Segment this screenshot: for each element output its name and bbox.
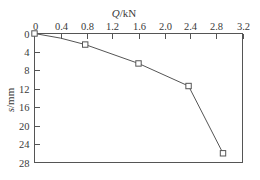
y-tick-label: 28 <box>19 158 30 169</box>
y-tick-label: 4 <box>24 47 30 58</box>
x-tick-label: 1.2 <box>106 21 119 32</box>
x-axis-title-unit: /kN <box>120 7 137 19</box>
y-axis-tick-labels: 0481216202428 <box>19 29 30 169</box>
series-polyline <box>35 34 224 154</box>
y-axis-title-unit: /mm <box>4 87 16 108</box>
y-tick-label: 8 <box>24 65 29 76</box>
series-markers <box>32 31 226 156</box>
data-series <box>32 31 226 156</box>
chart-canvas: Q/kN s/mm 00.40.81.21.62.02.42.83.2 0481… <box>0 0 260 180</box>
x-tick-label: 2.4 <box>184 21 198 32</box>
x-tick-label: 0.4 <box>55 21 69 32</box>
x-tick-label: 3.2 <box>237 21 250 32</box>
y-tick-label: 16 <box>19 102 30 113</box>
y-axis-tick-marks <box>35 53 40 145</box>
data-point-marker <box>186 83 191 88</box>
x-axis-title: Q/kN <box>112 7 137 19</box>
x-axis-tick-labels: 00.40.81.21.62.02.42.83.2 <box>33 21 250 32</box>
x-tick-label: 2.8 <box>210 21 223 32</box>
x-tick-label: 0 <box>33 21 38 32</box>
x-tick-label: 2.0 <box>159 21 172 32</box>
load-settlement-chart: Q/kN s/mm 00.40.81.21.62.02.42.83.2 0481… <box>0 0 260 180</box>
y-axis-title: s/mm <box>4 87 16 112</box>
y-tick-label: 24 <box>19 139 30 150</box>
data-point-marker <box>220 151 225 156</box>
plot-frame <box>35 34 243 163</box>
y-tick-label: 12 <box>19 84 30 95</box>
x-axis-title-variable: Q <box>112 7 120 19</box>
data-point-marker <box>83 42 88 47</box>
data-point-marker <box>136 61 141 66</box>
x-tick-label: 0.8 <box>81 21 94 32</box>
data-point-marker <box>32 31 37 36</box>
y-tick-label: 0 <box>24 29 29 40</box>
x-axis-tick-marks <box>62 34 244 39</box>
y-tick-label: 20 <box>19 121 30 132</box>
x-tick-label: 1.6 <box>133 21 146 32</box>
